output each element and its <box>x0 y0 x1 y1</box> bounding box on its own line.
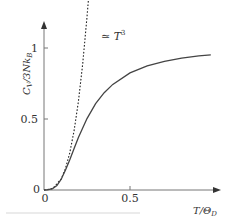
t-cubed-annotation: ≃ T3 <box>101 29 126 43</box>
y-axis-label: CV/3NkB <box>21 53 34 95</box>
x-axis-arrow-icon <box>213 187 221 193</box>
y-axis-arrow-icon <box>41 21 47 29</box>
t-cubed-curve <box>44 0 88 190</box>
y-tick-label-05: 0.5 <box>21 113 39 126</box>
debye-curve <box>44 55 211 190</box>
y-tick-label-0: 0 <box>33 183 40 196</box>
x-tick-label-0: 0 <box>42 192 49 205</box>
x-axis-label: T/ΘD <box>193 205 217 218</box>
x-tick-label-05: 0.5 <box>121 192 139 205</box>
debye-heat-capacity-chart: 1 0.5 0 0 0.5 CV/3NkB T/ΘD ≃ T3 <box>0 0 231 223</box>
